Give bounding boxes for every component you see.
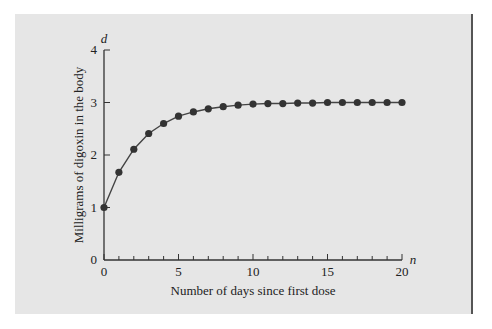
data-point: [339, 99, 346, 106]
y-tick-label: 1: [91, 200, 98, 215]
data-point: [354, 99, 361, 106]
data-point: [384, 99, 391, 106]
data-series: [100, 99, 405, 211]
line-chart: 0510152001234 d n Number of days since f…: [0, 0, 492, 329]
y-axis-title: Milligrams of digoxin in the body: [71, 66, 86, 243]
x-tick-label: 15: [321, 264, 334, 279]
data-point: [205, 105, 212, 112]
data-point: [175, 113, 182, 120]
data-point: [294, 99, 301, 106]
data-point: [130, 146, 137, 153]
x-tick-label: 0: [101, 264, 108, 279]
data-point: [369, 99, 376, 106]
data-point: [220, 103, 227, 110]
x-tick-label: 5: [175, 264, 182, 279]
axes: 0510152001234: [91, 42, 409, 279]
data-point: [235, 102, 242, 109]
x-axis-title: Number of days since first dose: [171, 283, 336, 298]
data-point: [100, 204, 107, 211]
data-point: [398, 99, 405, 106]
x-variable-label: n: [410, 252, 417, 267]
y-tick-label: 3: [91, 95, 98, 110]
x-tick-label: 10: [247, 264, 260, 279]
y-tick-label: 2: [91, 147, 98, 162]
y-tick-label: 0: [91, 252, 98, 267]
x-tick-label: 20: [396, 264, 409, 279]
data-point: [279, 100, 286, 107]
data-point: [249, 100, 256, 107]
data-point: [264, 100, 271, 107]
data-point: [160, 120, 167, 127]
data-point: [190, 108, 197, 115]
data-point: [324, 99, 331, 106]
y-tick-label: 4: [91, 42, 98, 57]
series-line: [104, 103, 402, 208]
y-variable-label: d: [101, 31, 108, 46]
data-point: [115, 169, 122, 176]
data-point: [145, 130, 152, 137]
data-point: [309, 99, 316, 106]
